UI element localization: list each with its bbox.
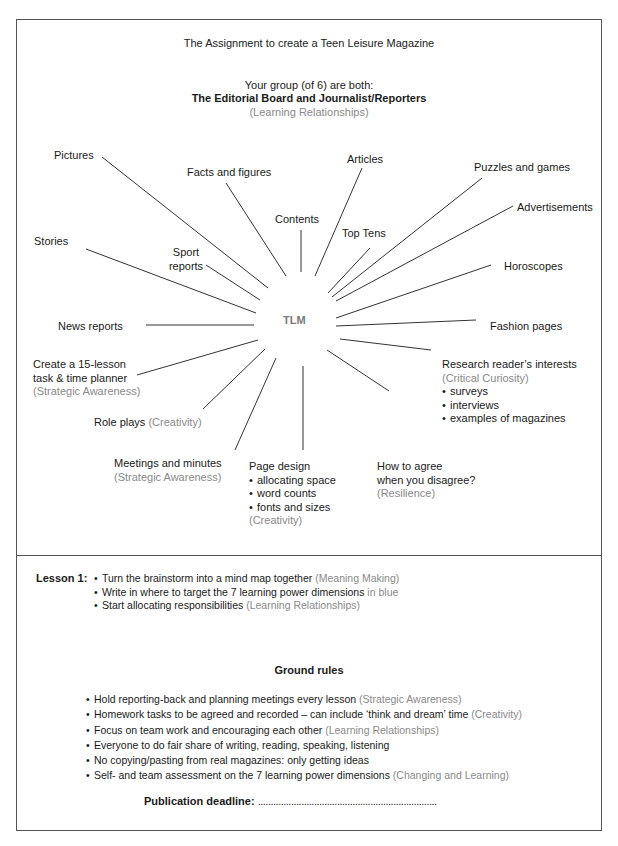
connector-advertisements <box>336 206 513 301</box>
node-articles: Articles <box>347 153 383 167</box>
connector-fashion <box>336 320 476 326</box>
page-design-item: allocating space <box>249 474 336 488</box>
deadline-blank[interactable]: ........................................… <box>258 795 437 807</box>
rule-dimension: (Strategic Awareness) <box>356 693 461 705</box>
node-meetings-dimension: (Strategic Awareness) <box>114 471 222 485</box>
rule-text: Focus on team work and encouraging each … <box>94 724 322 736</box>
connector-planner <box>137 340 258 375</box>
node-top-tens: Top Tens <box>342 227 386 241</box>
lesson-list: Turn the brainstorm into a mind map toge… <box>94 572 399 613</box>
page-design-item: word counts <box>249 487 336 501</box>
node-research-dimension: (Critical Curiosity) <box>442 372 577 386</box>
node-sport: Sport reports <box>168 246 204 273</box>
node-page-design-title: Page design <box>249 460 336 474</box>
rule-item: Everyone to do fair share of writing, re… <box>86 738 522 753</box>
lesson-item: Write in where to target the 7 learning … <box>94 586 399 600</box>
node-facts: Facts and figures <box>187 166 271 180</box>
node-agree-dimension: (Resilience) <box>377 487 475 501</box>
rule-text: Hold reporting-back and planning meeting… <box>94 693 356 705</box>
node-planner-line1: Create a 15-lesson <box>33 358 140 372</box>
lesson-item: Turn the brainstorm into a mind map toge… <box>94 572 399 586</box>
node-meetings: Meetings and minutes (Strategic Awarenes… <box>114 457 222 484</box>
node-planner: Create a 15-lesson task & time planner (… <box>33 358 140 399</box>
node-agree-line2: when you disagree? <box>377 474 475 488</box>
rule-item: Hold reporting-back and planning meeting… <box>86 692 522 707</box>
research-item: examples of magazines <box>442 412 577 426</box>
connector-horoscopes <box>336 265 491 318</box>
connector-articles <box>315 168 362 276</box>
ground-rules-title: Ground rules <box>0 664 618 678</box>
node-meetings-label: Meetings and minutes <box>114 457 222 471</box>
node-sport-line1: Sport <box>168 246 204 260</box>
connector-sport <box>206 265 260 300</box>
node-research-title: Research reader’s interests <box>442 358 577 372</box>
rule-text: Homework tasks to be agreed and recorded… <box>94 708 468 720</box>
research-item: surveys <box>442 385 577 399</box>
node-fashion: Fashion pages <box>490 320 562 334</box>
node-role-plays-label: Role plays <box>94 416 145 428</box>
node-advertisements: Advertisements <box>517 201 593 215</box>
rule-dimension: (Creativity) <box>468 708 522 720</box>
node-page-design: Page design allocating space word counts… <box>249 460 336 528</box>
connector-research <box>340 339 431 350</box>
node-horoscopes: Horoscopes <box>504 260 563 274</box>
rule-item: Focus on team work and encouraging each … <box>86 723 522 738</box>
lesson-item-dimension: (Meaning Making) <box>312 572 399 584</box>
lesson-item-dimension: in blue <box>364 586 398 598</box>
research-item: interviews <box>442 399 577 413</box>
rule-dimension: (Changing and Learning) <box>390 769 509 781</box>
node-planner-line2: task & time planner <box>33 372 140 386</box>
mindmap-center: TLM <box>283 314 306 326</box>
node-puzzles: Puzzles and games <box>474 161 570 175</box>
connector-role-plays <box>203 349 265 409</box>
node-agree: How to agree when you disagree? (Resilie… <box>377 460 475 501</box>
node-role-plays-dimension: (Creativity) <box>148 416 201 428</box>
rule-dimension: (Learning Relationships) <box>322 724 439 736</box>
lesson-item-text: Turn the brainstorm into a mind map toge… <box>102 572 312 584</box>
node-page-design-dimension: (Creativity) <box>249 514 336 528</box>
node-role-plays: Role plays (Creativity) <box>94 416 202 430</box>
node-research: Research reader’s interests (Critical Cu… <box>442 358 577 426</box>
node-stories: Stories <box>34 235 68 249</box>
rule-item: No copying/pasting from real magazines: … <box>86 753 522 768</box>
node-sport-line2: reports <box>168 260 204 274</box>
node-agree-line1: How to agree <box>377 460 475 474</box>
page-design-item: fonts and sizes <box>249 501 336 515</box>
lesson-item-text: Write in where to target the 7 learning … <box>102 586 364 598</box>
page-design-list: allocating space word counts fonts and s… <box>249 474 336 515</box>
lesson-item-text: Start allocating responsibilities <box>102 599 243 611</box>
ground-rules-list: Hold reporting-back and planning meeting… <box>86 692 522 784</box>
rule-text: Everyone to do fair share of writing, re… <box>94 739 389 751</box>
research-list: surveys interviews examples of magazines <box>442 385 577 426</box>
publication-deadline: Publication deadline: ..................… <box>144 795 437 809</box>
lesson-label: Lesson 1: <box>36 572 87 586</box>
node-planner-dimension: (Strategic Awareness) <box>33 385 140 399</box>
lesson-item-dimension: (Learning Relationships) <box>243 599 360 611</box>
deadline-label: Publication deadline: <box>144 795 255 807</box>
node-contents: Contents <box>275 213 319 227</box>
node-news: News reports <box>58 320 123 334</box>
connector-agree <box>327 350 389 391</box>
rule-text: Self- and team assessment on the 7 learn… <box>94 769 390 781</box>
rule-item: Self- and team assessment on the 7 learn… <box>86 768 522 783</box>
rule-text: No copying/pasting from real magazines: … <box>94 754 369 766</box>
rule-item: Homework tasks to be agreed and recorded… <box>86 707 522 722</box>
node-pictures: Pictures <box>54 149 94 163</box>
lesson-item: Start allocating responsibilities (Learn… <box>94 599 399 613</box>
